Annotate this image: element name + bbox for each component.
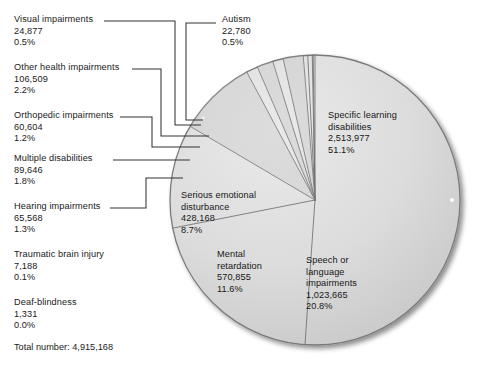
callout-traumatic-value: 7,188 <box>14 261 104 273</box>
slice-speech-name-line2: language <box>306 267 357 279</box>
callout-visual-name: Visual impairments <box>14 14 93 26</box>
slice-sed-value: 428,168 <box>181 213 256 225</box>
slice-mr-name-line2: retardation <box>217 261 262 273</box>
callout-visual-value: 24,877 <box>14 26 93 38</box>
callout-deaf-blindness-name: Deaf-blindness <box>14 297 77 309</box>
callout-hearing-value: 65,568 <box>14 213 101 225</box>
slice-sld-value: 2,513,977 <box>328 133 397 145</box>
callout-multiple-percent: 1.8% <box>14 176 93 188</box>
callout-other-health-value: 106,509 <box>14 74 119 86</box>
callout-autism-percent: 0.5% <box>222 37 251 49</box>
slice-mr-percent: 11.6% <box>217 284 262 296</box>
slice-label-speech-or-language-impairments: Speech or language impairments 1,023,665… <box>306 255 357 313</box>
callout-visual-impairments: Visual impairments 24,877 0.5% <box>14 14 93 49</box>
callout-other-health-name: Other health impairments <box>14 62 119 74</box>
callout-autism: Autism 22,780 0.5% <box>222 14 251 49</box>
callout-multiple-disabilities: Multiple disabilities 89,646 1.8% <box>14 153 93 188</box>
slice-mr-name-line1: Mental <box>217 249 262 261</box>
slice-speech-name-line1: Speech or <box>306 255 357 267</box>
callout-hearing-impairments: Hearing impairments 65,568 1.3% <box>14 201 101 236</box>
slice-speech-percent: 20.8% <box>306 301 357 313</box>
callout-orthopedic-name: Orthopedic impairments <box>14 110 114 122</box>
speck-right <box>450 198 454 202</box>
slice-label-serious-emotional-disturbance: Serious emotional disturbance 428,168 8.… <box>181 190 256 236</box>
callout-hearing-percent: 1.3% <box>14 224 101 236</box>
callout-traumatic-brain-injury: Traumatic brain injury 7,188 0.1% <box>14 249 104 284</box>
slice-sld-name-line2: disabilities <box>328 122 397 134</box>
pie-chart-figure: Visual impairments 24,877 0.5% Other hea… <box>0 0 478 372</box>
callout-other-health-impairments: Other health impairments 106,509 2.2% <box>14 62 119 97</box>
slice-speech-name-line3: impairments <box>306 278 357 290</box>
slice-sed-name-line2: disturbance <box>181 202 256 214</box>
callout-orthopedic-impairments: Orthopedic impairments 60,604 1.2% <box>14 110 114 145</box>
callout-traumatic-percent: 0.1% <box>14 272 104 284</box>
callout-multiple-value: 89,646 <box>14 165 93 177</box>
slice-label-specific-learning-disabilities: Specific learning disabilities 2,513,977… <box>328 110 397 156</box>
slice-mr-value: 570,855 <box>217 272 262 284</box>
slice-sld-name-line1: Specific learning <box>328 110 397 122</box>
slice-label-mental-retardation: Mental retardation 570,855 11.6% <box>217 249 262 295</box>
slice-sld-percent: 51.1% <box>328 145 397 157</box>
callout-orthopedic-value: 60,604 <box>14 122 114 134</box>
callout-deaf-blindness-percent: 0.0% <box>14 320 77 332</box>
callout-visual-percent: 0.5% <box>14 37 93 49</box>
slice-sed-percent: 8.7% <box>181 225 256 237</box>
total-number-label: Total number: 4,915,168 <box>14 342 113 354</box>
callout-other-health-percent: 2.2% <box>14 85 119 97</box>
callout-hearing-name: Hearing impairments <box>14 201 101 213</box>
slice-sed-name-line1: Serious emotional <box>181 190 256 202</box>
slice-speech-value: 1,023,665 <box>306 290 357 302</box>
speck-upper-left <box>202 117 205 120</box>
callout-autism-value: 22,780 <box>222 26 251 38</box>
callout-autism-name: Autism <box>222 14 251 26</box>
callout-multiple-name: Multiple disabilities <box>14 153 93 165</box>
callout-deaf-blindness-value: 1,331 <box>14 309 77 321</box>
callout-traumatic-name: Traumatic brain injury <box>14 249 104 261</box>
callout-deaf-blindness: Deaf-blindness 1,331 0.0% <box>14 297 77 332</box>
callout-orthopedic-percent: 1.2% <box>14 133 114 145</box>
